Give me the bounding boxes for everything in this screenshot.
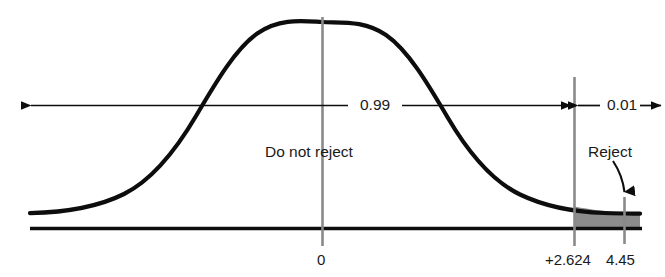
- reject-callout-arrow: [613, 161, 625, 192]
- axis-tick-label-zero: 0: [317, 252, 325, 267]
- normal-distribution-hypothesis-test-figure: 0.99 0.01 Do not reject Reject 0 +2.624 …: [0, 0, 665, 277]
- do-not-reject-label: Do not reject: [265, 144, 353, 160]
- chart-canvas: [0, 0, 665, 277]
- normal-curve: [30, 21, 640, 214]
- axis-tick-label-test-statistic: 4.45: [606, 252, 635, 267]
- probability-label-main: 0.99: [357, 97, 393, 113]
- probability-label-tail: 0.01: [604, 97, 640, 113]
- reject-label: Reject: [588, 144, 632, 160]
- axis-tick-label-critical-value: +2.624: [545, 252, 591, 267]
